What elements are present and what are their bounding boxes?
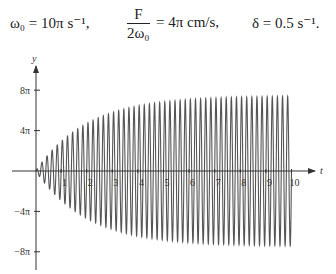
plot-area: t y 12345678910 8π4π−4π−8π [0, 0, 336, 274]
x-tick-label: 10 [290, 177, 300, 188]
y-axis-label: y [31, 53, 37, 64]
x-axis-label: t [320, 165, 323, 176]
x-tick-label: 3 [113, 177, 118, 188]
y-tick-label: −8π [14, 246, 30, 257]
x-tick-label: 2 [88, 177, 93, 188]
x-tick-label: 5 [165, 177, 170, 188]
figure: ω₀ = 10π s⁻¹, F 2ω₀ = 4π cm/s, δ = 0.5 s… [0, 0, 336, 274]
y-tick-label: 8π [20, 85, 30, 96]
x-tick-label: 7 [216, 177, 221, 188]
y-tick-label: 4π [20, 125, 30, 136]
x-tick-label: 1 [62, 177, 67, 188]
x-tick-label: 9 [267, 177, 272, 188]
y-tick-label: −4π [14, 206, 30, 217]
x-tick-label: 6 [190, 177, 195, 188]
x-tick-label: 8 [241, 177, 246, 188]
x-tick-label: 4 [139, 177, 144, 188]
